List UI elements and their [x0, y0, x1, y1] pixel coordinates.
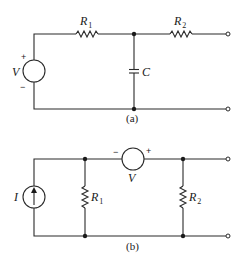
wire-b-left-bottom	[34, 208, 226, 236]
circuit-a: + − V R1 R2 C (a)	[12, 14, 230, 125]
terminal-b-bottom	[226, 234, 230, 238]
node-b-r1-bottom	[83, 234, 87, 238]
voltage-source-a-plus: +	[21, 52, 26, 62]
voltage-source-b-label: V	[128, 171, 137, 185]
resistor-a-r1	[76, 31, 98, 37]
current-source-b-label: I	[13, 190, 19, 204]
circuit-b: I − + V R1 R2 (b)	[13, 146, 230, 253]
resistor-a-r2	[170, 31, 192, 37]
voltage-source-b-plus: +	[146, 146, 151, 156]
wire-a-left-bottom	[34, 82, 226, 109]
resistor-b-r2	[180, 186, 186, 208]
voltage-source-a	[23, 60, 45, 82]
capacitor-a	[129, 70, 139, 74]
voltage-source-a-label: V	[12, 65, 21, 79]
circuit-figure: + − V R1 R2 C (a)	[0, 0, 247, 259]
node-b-r1-top	[83, 157, 87, 161]
capacitor-a-label: C	[142, 65, 151, 79]
terminal-a-top	[226, 32, 230, 36]
resistor-a-r1-label: R1	[79, 14, 92, 30]
node-b-r2-bottom	[181, 234, 185, 238]
node-b-r2-top	[181, 157, 185, 161]
terminal-a-bottom	[226, 107, 230, 111]
voltage-source-b-minus: −	[113, 147, 118, 157]
wire-a-left-top	[34, 34, 76, 60]
voltage-source-a-minus: −	[20, 82, 25, 92]
node-a-top	[132, 32, 136, 36]
resistor-b-r1-label: R1	[90, 190, 103, 206]
voltage-source-b	[122, 148, 144, 170]
node-a-bottom	[132, 107, 136, 111]
resistor-a-r2-label: R2	[173, 14, 186, 30]
resistor-b-r2-label: R2	[188, 190, 201, 206]
resistor-b-r1	[82, 186, 88, 208]
caption-a: (a)	[126, 112, 139, 125]
wire-b-left-top	[34, 159, 122, 186]
caption-b: (b)	[126, 240, 139, 253]
terminal-b-top	[226, 157, 230, 161]
